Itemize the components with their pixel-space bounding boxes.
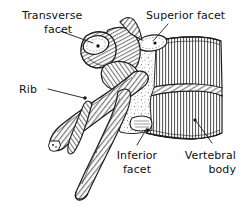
label-rib: Rib <box>19 83 37 96</box>
vertebral-body-group <box>146 37 222 139</box>
vertebra-illustration: Transverse facet Superior facet Rib Infe… <box>0 0 250 209</box>
label-transverse-facet-line1: Transverse <box>21 9 82 22</box>
label-superior-facet: Superior facet <box>146 9 226 22</box>
label-inferior-facet-line2: facet <box>123 163 152 176</box>
anatomical-figure: Transverse facet Superior facet Rib Infe… <box>0 0 250 209</box>
label-vertebral-body-line1: Vertebral <box>185 149 236 162</box>
label-vertebral-body-line2: body <box>208 163 236 176</box>
label-inferior-facet-line1: Inferior <box>117 149 158 162</box>
label-transverse-facet-line2: facet <box>44 23 73 36</box>
inferior-articular-facet <box>130 116 152 132</box>
